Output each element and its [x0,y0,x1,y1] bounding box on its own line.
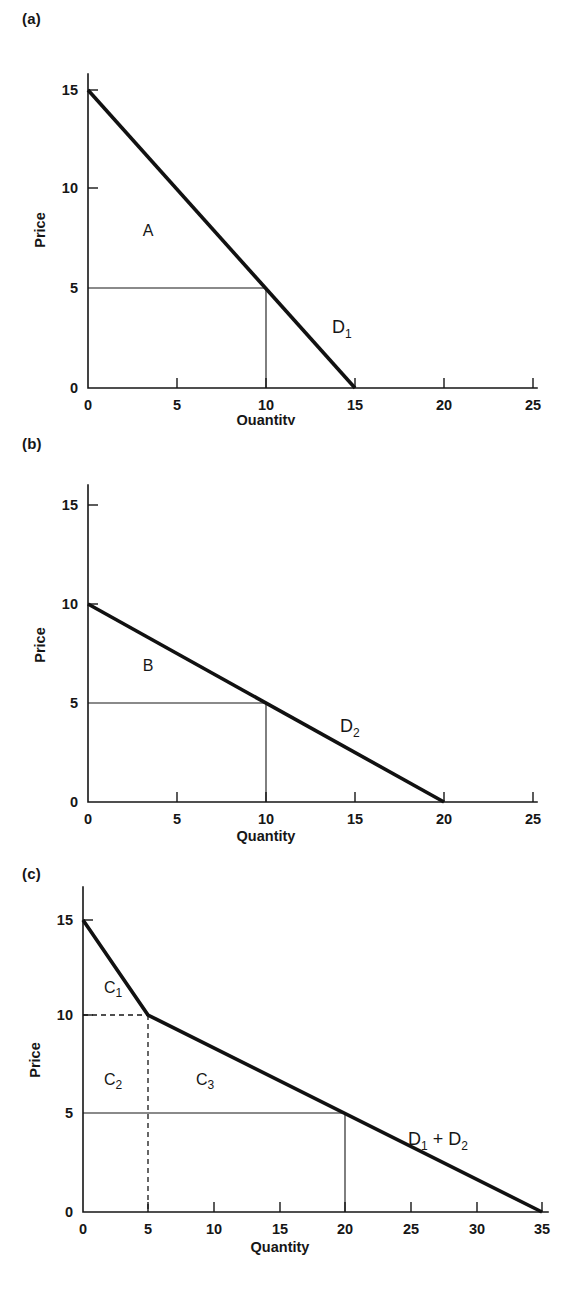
chart-a-ytick-10: 10 [62,180,78,196]
chart-b-xtick-25: 25 [525,811,541,827]
chart-b-xtick-10: 10 [258,811,274,827]
chart-c-xtick-30: 30 [469,1221,485,1237]
chart-c-ytick-10: 10 [57,1007,73,1023]
chart-c-ytick-15: 15 [57,912,73,928]
chart-b-xtick-15: 15 [347,811,363,827]
chart-a-ytick-5: 5 [70,280,78,296]
chart-c-xtick-0: 0 [79,1221,87,1237]
chart-c-ylabel: Price [27,1042,43,1077]
chart-c-xtick-15: 15 [272,1221,288,1237]
chart-a-demand-curve-d1 [88,90,355,388]
chart-c-region-label-c3: C3 [196,1071,215,1092]
chart-c-region-label-c2: C2 [104,1071,123,1092]
chart-c-xtick-10: 10 [206,1221,222,1237]
chart-b-x-ticks [177,792,533,802]
chart-c-ytick-5: 5 [65,1105,73,1121]
panel-a: (a) 15 10 5 0 0 5 10 15 20 [0,0,571,425]
chart-c-xtick-5: 5 [144,1221,152,1237]
chart-a-xtick-5: 5 [173,397,181,413]
chart-a-xtick-0: 0 [84,397,92,413]
chart-a-y-ticks [88,90,98,188]
chart-b-ytick-5: 5 [70,695,78,711]
panel-b: (b) 15 10 5 0 0 5 10 15 20 [0,425,571,855]
chart-b-ylabel: Price [32,627,48,662]
chart-b-xtick-0: 0 [84,811,92,827]
chart-a-ytick-15: 15 [62,82,78,98]
chart-b-region-label-b: B [143,657,154,674]
chart-a-xtick-20: 20 [436,397,452,413]
chart-c-ytick-0: 0 [65,1204,73,1220]
chart-c-xtick-25: 25 [403,1221,419,1237]
chart-a: 15 10 5 0 0 5 10 15 20 25 Price Quantity… [0,0,571,425]
chart-a-ylabel: Price [32,212,48,247]
chart-c-demand-curve-d1-plus-d2 [83,920,542,1212]
chart-c-xlabel: Quantity [251,1239,310,1255]
panel-c: (c) 15 10 5 0 0 [0,855,571,1291]
chart-b-ytick-15: 15 [62,497,78,513]
chart-b-ytick-10: 10 [62,596,78,612]
chart-b-curve-label-d2: D2 [340,716,360,740]
chart-a-ytick-0: 0 [70,380,78,396]
chart-b-xlabel: Quantity [237,828,296,844]
chart-c-xtick-35: 35 [534,1221,550,1237]
chart-c-axes [83,887,548,1212]
chart-b: 15 10 5 0 0 5 10 15 20 25 Price Quantity… [0,425,571,855]
chart-b-y-ticks [88,505,98,604]
chart-c: 15 10 5 0 0 5 10 15 20 25 30 35 Price Qu… [0,855,571,1291]
chart-a-curve-label-d1: D1 [332,317,352,341]
chart-c-region-label-c1: C1 [104,979,123,1000]
chart-a-xtick-15: 15 [347,397,363,413]
chart-b-ytick-0: 0 [70,794,78,810]
chart-b-xtick-5: 5 [173,811,181,827]
chart-a-xtick-10: 10 [258,397,274,413]
chart-a-xlabel: Quantity [237,412,296,425]
chart-c-xtick-20: 20 [337,1221,353,1237]
chart-a-xtick-25: 25 [525,397,541,413]
chart-b-xtick-20: 20 [436,811,452,827]
chart-a-region-label-a: A [143,222,154,239]
